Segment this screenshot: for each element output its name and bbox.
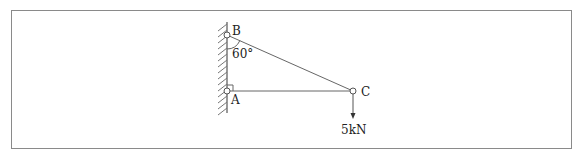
label-angle: 60° <box>232 47 253 61</box>
joint-b <box>224 32 230 38</box>
label-c: C <box>361 85 370 99</box>
joint-a <box>224 88 230 94</box>
load-arrow-icon <box>351 94 356 119</box>
label-load: 5kN <box>341 123 366 137</box>
label-a: A <box>230 93 240 107</box>
joint-c <box>350 88 356 94</box>
truss-diagram: B 60° A C 5kN <box>0 0 580 161</box>
member-bc <box>227 35 353 91</box>
label-b: B <box>232 24 241 38</box>
